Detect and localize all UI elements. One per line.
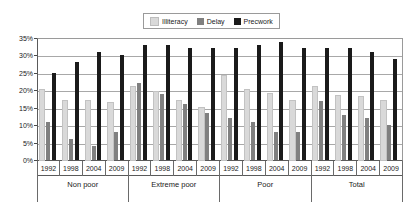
year-axis-label: 2009: [200, 165, 216, 172]
year-axis-cell: 2004: [174, 161, 197, 176]
year-axis-cell: 2009: [380, 161, 403, 176]
year-axis-label: 2009: [292, 165, 308, 172]
y-axis-tick-label: 0%: [23, 157, 33, 164]
bar-precwork: [257, 45, 261, 160]
bar-precwork: [166, 45, 170, 160]
y-axis-tick-label: 10%: [19, 122, 33, 129]
legend-entry-illiteracy[interactable]: Illiteracy: [150, 17, 188, 26]
bar-precwork: [325, 48, 329, 160]
bar-delay: [296, 132, 300, 160]
year-axis-label: 2004: [86, 165, 102, 172]
y-axis-tick-label: 20%: [19, 87, 33, 94]
y-axis-tick-label: 5%: [23, 139, 33, 146]
year-axis-cell: 2004: [266, 161, 289, 176]
bar-precwork: [348, 48, 352, 160]
bar-illiteracy: [63, 101, 67, 160]
year-axis-cell: 1992: [220, 161, 243, 176]
bar-illiteracy: [245, 90, 249, 160]
group-axis: Non poorExtreme poorPoorTotal: [37, 176, 403, 202]
bar-delay: [92, 146, 96, 160]
bar-precwork: [97, 52, 101, 160]
bar-precwork: [143, 45, 147, 160]
year-axis-cell: 2009: [289, 161, 312, 176]
group-axis-cell-total: Total: [312, 176, 404, 202]
year-axis-label: 1992: [223, 165, 239, 172]
bar-illiteracy: [381, 101, 385, 160]
y-axis-tick-label: 35%: [19, 35, 33, 42]
y-axis-tick-label: 15%: [19, 104, 33, 111]
bar-illiteracy: [40, 90, 44, 160]
year-axis-label: 1998: [155, 165, 171, 172]
year-axis-label: 1992: [41, 165, 57, 172]
bar-precwork: [52, 73, 56, 160]
bar-illiteracy: [222, 76, 226, 160]
bar-delay: [183, 104, 187, 160]
bar-precwork: [302, 48, 306, 160]
year-axis-cell: 1998: [243, 161, 266, 176]
year-axis-label: 2004: [177, 165, 193, 172]
year-axis-cell: 1998: [334, 161, 357, 176]
year-axis-label: 1998: [246, 165, 262, 172]
bar-delay: [319, 101, 323, 160]
group-axis-label: Extreme poor: [151, 181, 196, 189]
legend-swatch-icon: [150, 17, 159, 26]
year-axis-cell: 1992: [312, 161, 335, 176]
group-axis-cell-non-poor: Non poor: [37, 176, 129, 202]
year-axis-label: 1992: [132, 165, 148, 172]
bar-delay: [160, 94, 164, 160]
bar-delay: [387, 125, 391, 160]
bar-precwork: [211, 48, 215, 160]
bar-illiteracy: [313, 87, 317, 160]
y-axis-tick-label: 25%: [19, 69, 33, 76]
year-axis-label: 2009: [383, 165, 399, 172]
legend-label: Precwork: [244, 18, 273, 25]
year-axis-cell: 2004: [83, 161, 106, 176]
bar-delay: [46, 122, 50, 160]
y-axis-labels: 35%30%25%20%15%10%5%0%: [0, 38, 33, 161]
year-axis-label: 2004: [360, 165, 376, 172]
group-axis-label: Poor: [257, 181, 273, 189]
bar-illiteracy: [359, 97, 363, 160]
year-axis-cell: 1992: [129, 161, 152, 176]
bar-precwork: [393, 59, 397, 160]
bar-precwork: [279, 42, 283, 161]
bar-precwork: [188, 48, 192, 160]
year-axis-cell: 2009: [197, 161, 220, 176]
year-axis-cell: 2009: [106, 161, 129, 176]
year-axis-label: 1998: [338, 165, 354, 172]
bar-precwork: [75, 62, 79, 160]
bar-delay: [205, 113, 209, 160]
bar-precwork: [370, 52, 374, 160]
year-axis-cell: 1998: [151, 161, 174, 176]
bar-illiteracy: [336, 96, 340, 160]
legend-swatch-icon: [234, 18, 241, 25]
bar-illiteracy: [131, 87, 135, 160]
bar-precwork: [234, 48, 238, 160]
bar-illiteracy: [108, 103, 112, 161]
group-axis-cell-poor: Poor: [220, 176, 312, 202]
bar-delay: [137, 83, 141, 160]
year-axis-cell: 1992: [37, 161, 60, 176]
year-axis-label: 1998: [63, 165, 79, 172]
bar-delay: [69, 139, 73, 160]
chart-legend: IlliteracyDelayPrecwork: [143, 13, 280, 29]
legend-entry-precwork[interactable]: Precwork: [234, 18, 273, 25]
y-axis-tick-label: 30%: [19, 52, 33, 59]
bar-delay: [365, 118, 369, 160]
year-axis-label: 2004: [269, 165, 285, 172]
bar-illiteracy: [268, 94, 272, 160]
legend-swatch-icon: [197, 18, 204, 25]
bar-delay: [342, 115, 346, 160]
bar-illiteracy: [154, 92, 158, 160]
chart-container: IlliteracyDelayPrecwork 35%30%25%20%15%1…: [0, 0, 409, 206]
group-axis-label: Total: [349, 181, 365, 189]
year-axis-cell: 1998: [60, 161, 83, 176]
bar-illiteracy: [199, 108, 203, 160]
bar-illiteracy: [290, 101, 294, 160]
group-axis-label: Non poor: [67, 181, 98, 189]
bar-illiteracy: [177, 101, 181, 160]
bar-precwork: [120, 55, 124, 160]
bar-delay: [274, 132, 278, 160]
legend-entry-delay[interactable]: Delay: [197, 18, 225, 25]
bar-illiteracy: [86, 101, 90, 160]
